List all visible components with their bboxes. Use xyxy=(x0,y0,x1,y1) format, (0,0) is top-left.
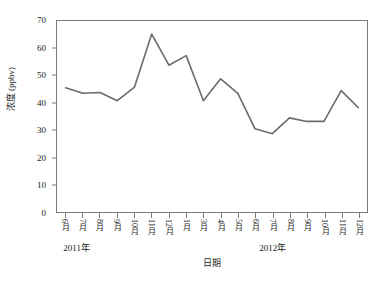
x-tick-mark xyxy=(221,213,222,218)
x-tick-mark xyxy=(255,213,256,218)
x-tick-label: 10月 xyxy=(130,219,139,235)
x-tick-label: 6月 xyxy=(60,219,69,231)
x-tick-label: 5月 xyxy=(234,219,243,231)
x-tick-mark xyxy=(238,213,239,218)
x-tick-mark xyxy=(117,213,118,218)
x-tick-mark xyxy=(325,213,326,218)
x-tick-label: 11月 xyxy=(147,219,156,235)
x-tick-mark xyxy=(290,213,291,218)
x-tick-mark xyxy=(151,213,152,218)
x-tick-mark xyxy=(359,213,360,218)
x-tick-label: 12月 xyxy=(164,219,173,235)
chart-figure: 010203040506070 浓度 (ppbv) 6月7月8月9月10月11月… xyxy=(0,0,382,282)
x-tick-label: 8月 xyxy=(95,219,104,231)
data-line-concentration xyxy=(66,34,359,134)
y-tick-label: 20 xyxy=(37,153,46,162)
x-tick-label: 6月 xyxy=(251,219,260,231)
x-tick-mark xyxy=(99,213,100,218)
x-tick-mark xyxy=(65,213,66,218)
x-axis-title: 日期 xyxy=(56,258,368,269)
x-tick-mark xyxy=(186,213,187,218)
x-axis-year-label: 2012年 xyxy=(259,243,286,253)
x-tick-mark xyxy=(307,213,308,218)
y-tick-label: 60 xyxy=(37,43,46,52)
x-tick-mark xyxy=(169,213,170,218)
x-tick-label: 8月 xyxy=(286,219,295,231)
y-tick-label: 0 xyxy=(42,209,47,218)
y-tick-label: 10 xyxy=(37,181,46,190)
y-tick-label: 40 xyxy=(37,98,46,107)
x-tick-label: 3月 xyxy=(199,219,208,231)
x-tick-label: 9月 xyxy=(303,219,312,231)
plot-area xyxy=(56,20,368,213)
y-tick-label: 30 xyxy=(37,126,46,135)
y-tick-label: 70 xyxy=(37,16,46,25)
x-tick-mark xyxy=(342,213,343,218)
x-tick-label: 12月 xyxy=(355,219,364,235)
line-series-svg xyxy=(57,21,367,212)
x-tick-label: 4月 xyxy=(216,219,225,231)
y-tick-label: 50 xyxy=(37,71,46,80)
x-tick-mark xyxy=(203,213,204,218)
x-axis-tick-labels: 6月7月8月9月10月11月12月1月3月4月5月6月7月8月9月10月11月1… xyxy=(56,219,368,243)
x-tick-mark xyxy=(82,213,83,218)
x-tick-label: 10月 xyxy=(320,219,329,235)
x-axis-year-label: 2011年 xyxy=(63,243,90,253)
x-tick-mark xyxy=(134,213,135,218)
x-tick-label: 11月 xyxy=(338,219,347,235)
x-tick-label: 7月 xyxy=(268,219,277,231)
x-tick-mark xyxy=(273,213,274,218)
x-tick-label: 7月 xyxy=(78,219,87,231)
x-tick-label: 9月 xyxy=(112,219,121,231)
y-axis-title: 浓度 (ppbv) xyxy=(6,47,16,131)
x-tick-label: 1月 xyxy=(182,219,191,231)
